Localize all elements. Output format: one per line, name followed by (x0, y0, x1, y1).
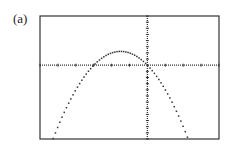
calculator-graph (0, 0, 229, 149)
plot-frame (40, 16, 219, 139)
parabola-curve (53, 51, 189, 140)
